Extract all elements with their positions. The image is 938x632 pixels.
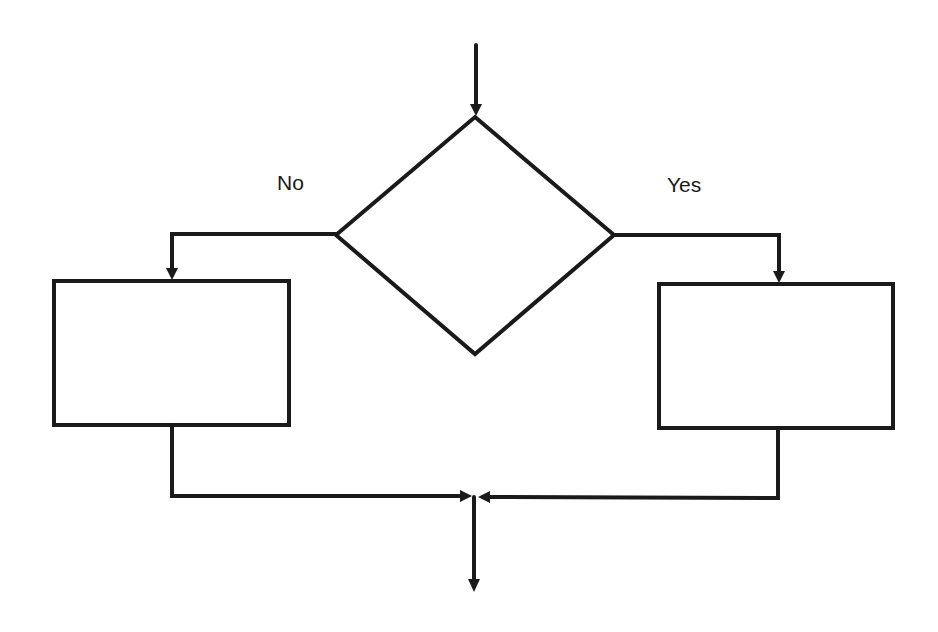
arrowhead-icon — [478, 491, 490, 503]
arrowhead-icon — [460, 490, 472, 502]
no-merge-connector — [172, 425, 472, 502]
yes-merge-connector — [478, 428, 778, 503]
decision-diamond[interactable] — [336, 117, 614, 354]
yes-process-box[interactable] — [659, 284, 893, 428]
arrowhead-icon — [773, 271, 785, 283]
arrowhead-icon — [470, 104, 482, 116]
arrowhead-icon — [166, 268, 178, 280]
yes-branch-label: Yes — [667, 174, 701, 195]
exit-arrow — [468, 497, 480, 592]
entry-arrow — [470, 45, 482, 116]
no-branch-connector — [166, 234, 336, 280]
arrowhead-icon — [468, 579, 480, 592]
no-process-box[interactable] — [54, 281, 289, 425]
yes-branch-connector — [614, 235, 785, 283]
no-branch-label: No — [277, 172, 304, 193]
flowchart-canvas — [0, 0, 938, 632]
